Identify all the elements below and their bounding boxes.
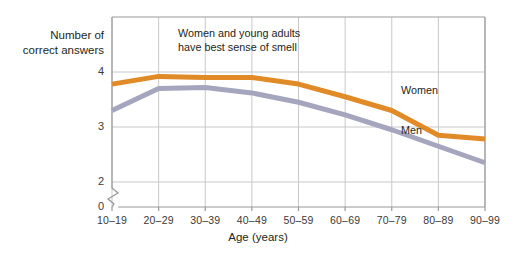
x-axis-title: Age (years) — [0, 231, 516, 243]
chart-annotation: Women and young adults have best sense o… — [178, 27, 300, 54]
series-label-men: Men — [401, 124, 422, 136]
y-tick-label: 0 — [84, 200, 104, 212]
axis-break-zigzag — [108, 182, 118, 207]
chart-figure: Number of correct answers 0234 10–1920–2… — [0, 0, 516, 257]
axis-ticks — [112, 207, 485, 211]
y-tick-label: 3 — [84, 120, 104, 132]
y-tick-label: 2 — [84, 175, 104, 187]
x-tick-label: 90–99 — [455, 214, 515, 226]
y-tick-label: 4 — [84, 65, 104, 77]
series-label-women: Women — [401, 84, 438, 96]
axis-break-icon — [108, 182, 118, 207]
